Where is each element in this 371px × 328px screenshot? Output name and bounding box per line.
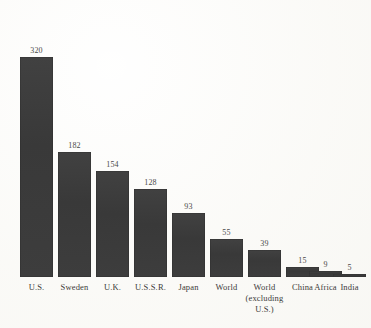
bar-label-1: Sweden bbox=[52, 282, 97, 293]
bar-value-9: 5 bbox=[347, 263, 351, 272]
bar-rect-1[interactable] bbox=[58, 152, 91, 277]
bar-rect-3[interactable] bbox=[134, 189, 167, 277]
bar-group-6[interactable]: 39 bbox=[248, 239, 281, 277]
bar-rect-2[interactable] bbox=[96, 171, 129, 277]
bar-rect-0[interactable] bbox=[20, 57, 53, 277]
bar-value-0: 320 bbox=[30, 46, 43, 55]
bar-value-4: 93 bbox=[184, 202, 192, 211]
bar-label-0: U.S. bbox=[20, 282, 53, 293]
bar-chart-plot-area: 320 U.S. 182 Sweden 154 U.K. 128 U.S.S.R… bbox=[0, 0, 371, 328]
bar-label-3: U.S.S.R. bbox=[128, 282, 173, 293]
bar-rect-6[interactable] bbox=[248, 250, 281, 277]
bar-value-2: 154 bbox=[106, 160, 119, 169]
bar-value-5: 55 bbox=[222, 228, 230, 237]
bar-group-1[interactable]: 182 bbox=[58, 141, 91, 277]
bar-group-3[interactable]: 128 bbox=[134, 178, 167, 277]
bar-label-9: India bbox=[330, 282, 369, 293]
chart-page: 320 U.S. 182 Sweden 154 U.K. 128 U.S.S.R… bbox=[0, 0, 371, 328]
bar-rect-5[interactable] bbox=[210, 239, 243, 277]
bar-value-7: 15 bbox=[298, 256, 306, 265]
bar-group-2[interactable]: 154 bbox=[96, 160, 129, 277]
bar-group-5[interactable]: 55 bbox=[210, 228, 243, 277]
bar-group-9[interactable]: 5 bbox=[333, 263, 366, 277]
bar-value-6: 39 bbox=[260, 239, 268, 248]
bar-value-8: 9 bbox=[323, 260, 327, 269]
bar-value-1: 182 bbox=[68, 141, 81, 150]
bar-value-3: 128 bbox=[144, 178, 157, 187]
bar-label-2: U.K. bbox=[96, 282, 129, 293]
bar-rect-9[interactable] bbox=[333, 274, 366, 277]
bar-group-4[interactable]: 93 bbox=[172, 202, 205, 277]
bar-rect-4[interactable] bbox=[172, 213, 205, 277]
bar-group-0[interactable]: 320 bbox=[20, 46, 53, 277]
bar-label-4: Japan bbox=[169, 282, 208, 293]
